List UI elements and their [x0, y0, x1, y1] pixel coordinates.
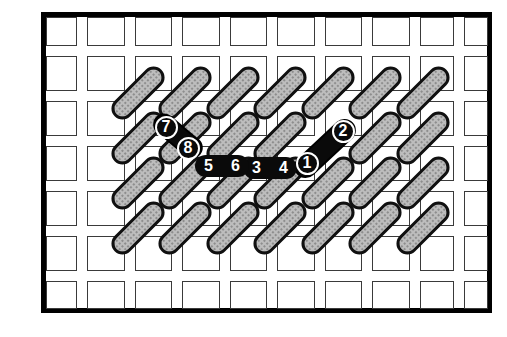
- stitch-number: 8: [184, 140, 193, 156]
- stitch-number-marker: 7: [155, 116, 178, 139]
- canvas-mesh-cell: [135, 281, 173, 310]
- stitch-number-marker: 2: [332, 120, 355, 143]
- canvas-mesh-cell: [182, 17, 220, 46]
- canvas-mesh-cell: [46, 56, 77, 91]
- stitch-number: 6: [231, 158, 240, 174]
- canvas-mesh-cell: [230, 17, 268, 46]
- canvas-mesh-cell: [325, 281, 363, 310]
- stitch-number-marker: 8: [177, 137, 200, 160]
- canvas-mesh-cell: [46, 191, 77, 226]
- canvas-mesh-cell: [372, 281, 410, 310]
- canvas-mesh-cell: [230, 281, 268, 310]
- canvas-mesh-cell: [420, 281, 455, 310]
- stitch-number: 2: [339, 123, 348, 139]
- canvas-mesh-cell: [420, 17, 455, 46]
- canvas-mesh-cell: [464, 281, 488, 310]
- canvas-mesh-cell: [46, 281, 77, 310]
- canvas-mesh-cell: [372, 17, 410, 46]
- canvas-mesh-cell: [87, 17, 125, 46]
- canvas-mesh-cell: [464, 17, 488, 46]
- canvas-mesh-cell: [464, 191, 488, 226]
- canvas-frame: 34561278: [41, 12, 492, 313]
- canvas-mesh-cell: [464, 146, 488, 181]
- canvas-mesh-cell: [87, 281, 125, 310]
- stitch-number: 1: [303, 155, 312, 171]
- canvas-mesh-cell: [464, 101, 488, 136]
- stitch-number: 4: [279, 160, 288, 176]
- stitch-number: 3: [252, 160, 261, 176]
- canvas-mesh-cell: [87, 56, 125, 91]
- canvas-mesh-cell: [46, 101, 77, 136]
- canvas-mesh-cell: [46, 17, 77, 46]
- canvas-mesh-cell: [46, 146, 77, 181]
- stitch-diagram-page: 34561278: [0, 0, 507, 337]
- canvas-mesh-cell: [135, 17, 173, 46]
- stitch-number: 7: [162, 119, 171, 135]
- stitch-number: 5: [204, 158, 213, 174]
- canvas-mesh-cell: [277, 17, 315, 46]
- canvas-mesh-cell: [325, 17, 363, 46]
- number-bar: 34: [243, 157, 297, 179]
- canvas-mesh-cell: [464, 56, 488, 91]
- canvas-mesh-cell: [464, 236, 488, 271]
- canvas-mesh-cell: [46, 236, 77, 271]
- stitch-number-marker: 1: [296, 152, 319, 175]
- canvas-mesh-cell: [277, 281, 315, 310]
- canvas-mesh-cell: [182, 281, 220, 310]
- number-bar: 56: [195, 155, 249, 177]
